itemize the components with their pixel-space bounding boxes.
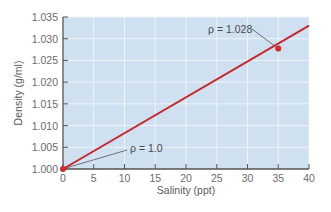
x-tick-label: 5 [91, 172, 97, 184]
y-tick-label: 1.010 [32, 120, 58, 132]
x-tick-label: 0 [60, 172, 66, 184]
density-salinity-chart: 0510152025303540 1.0001.0051.0101.0151.0… [0, 0, 331, 212]
y-tick-label: 1.000 [32, 163, 58, 175]
x-axis-title: Salinity (ppt) [157, 184, 215, 196]
y-tick-label: 1.015 [32, 98, 58, 110]
x-tick-label: 15 [149, 172, 161, 184]
x-tick-label: 40 [303, 172, 315, 184]
x-tick-label: 35 [272, 172, 284, 184]
x-tick-label: 30 [242, 172, 254, 184]
y-tick-label: 1.030 [32, 33, 58, 45]
x-tick-label: 10 [119, 172, 131, 184]
y-tick-label: 1.035 [32, 11, 58, 23]
y-tick-label: 1.020 [32, 76, 58, 88]
annotation-rho-1: ρ = 1.0 [130, 142, 163, 154]
x-tick-label: 25 [211, 172, 223, 184]
x-tick-label: 20 [180, 172, 192, 184]
y-axis-title: Density (g/ml) [12, 61, 24, 126]
data-point-35ppt [275, 45, 281, 51]
annotation-rho-1028: ρ = 1.028 [208, 23, 252, 35]
y-tick-label: 1.025 [32, 54, 58, 66]
data-point-origin [60, 166, 66, 172]
y-tick-label: 1.005 [32, 141, 58, 153]
